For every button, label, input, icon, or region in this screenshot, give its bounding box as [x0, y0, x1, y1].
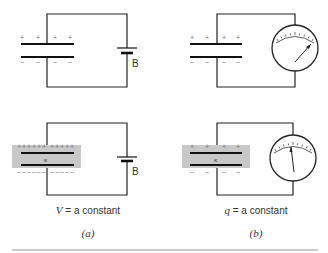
svg-text:+: +	[36, 34, 40, 41]
svg-text:+: +	[60, 143, 64, 150]
panel-label-a: (a)	[82, 227, 95, 240]
battery-label-a-bottom: B	[132, 166, 139, 177]
svg-text:+: +	[55, 143, 59, 150]
svg-text:–: –	[37, 168, 41, 175]
svg-text:–: –	[53, 58, 57, 65]
svg-text:+: +	[65, 143, 69, 150]
svg-text:–: –	[17, 168, 21, 175]
battery-label-a-top: B	[132, 58, 139, 69]
svg-text:–: –	[205, 58, 209, 65]
svg-text:+: +	[70, 143, 74, 150]
svg-text:–: –	[68, 58, 72, 65]
svg-text:+: +	[27, 143, 31, 150]
charge-signs-a-top: + + + + – – – –	[20, 34, 72, 65]
svg-text:+: +	[37, 143, 41, 150]
svg-text:+: +	[236, 143, 240, 150]
svg-text:–: –	[22, 168, 26, 175]
charge-signs-b-top: + + + + – – – –	[190, 34, 240, 65]
svg-text:+: +	[222, 143, 226, 150]
svg-text:+: +	[236, 34, 240, 41]
svg-text:–: –	[70, 168, 74, 175]
svg-text:+: +	[50, 143, 54, 150]
svg-text:–: –	[222, 58, 226, 65]
svg-text:+: +	[32, 143, 36, 150]
svg-text:+: +	[17, 143, 21, 150]
capacitor-plates-a-top	[21, 44, 74, 57]
electrometer-icon-b-bottom	[270, 135, 316, 181]
capacitor-dielectric-figure: + + + + – – – – B + + + + – – – –	[0, 0, 328, 253]
svg-text:–: –	[236, 58, 240, 65]
svg-text:+: +	[20, 34, 24, 41]
panel-label-b: (b)	[250, 227, 263, 240]
svg-text:+: +	[22, 143, 26, 150]
battery-icon-a-top	[117, 48, 137, 53]
svg-text:+: +	[190, 34, 194, 41]
svg-text:+: +	[42, 143, 46, 150]
panel-a-top-circuit	[47, 14, 127, 87]
condition-caption-b: q = a constant	[224, 204, 287, 216]
battery-icon-a-bottom	[117, 157, 137, 161]
svg-text:+: +	[53, 34, 57, 41]
svg-text:–: –	[55, 168, 59, 175]
svg-text:–: –	[236, 168, 240, 175]
svg-text:–: –	[222, 168, 226, 175]
svg-text:+: +	[205, 143, 209, 150]
svg-text:+: +	[190, 143, 194, 150]
svg-text:+: +	[68, 34, 72, 41]
svg-text:–: –	[65, 168, 69, 175]
svg-text:+: +	[205, 34, 209, 41]
svg-text:–: –	[205, 168, 209, 175]
svg-text:–: –	[50, 168, 54, 175]
svg-text:–: –	[190, 58, 194, 65]
svg-text:–: –	[190, 168, 194, 175]
svg-text:–: –	[36, 58, 40, 65]
capacitor-plates-b-top	[190, 44, 242, 57]
condition-caption-a: V = a constant	[56, 204, 120, 216]
svg-text:–: –	[60, 168, 64, 175]
svg-text:–: –	[42, 168, 46, 175]
svg-text:–: –	[32, 168, 36, 175]
svg-text:+: +	[222, 34, 226, 41]
electrometer-icon-b-top	[272, 25, 318, 71]
svg-text:–: –	[20, 58, 24, 65]
svg-text:–: –	[27, 168, 31, 175]
